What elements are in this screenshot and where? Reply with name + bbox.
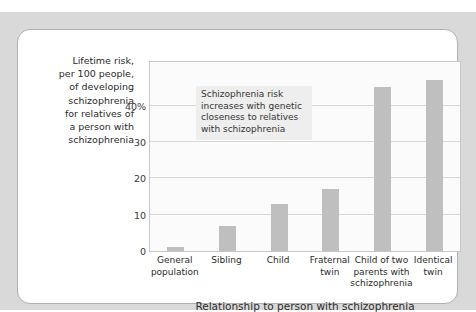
bar [426,80,443,251]
bar [322,189,339,251]
x-axis-tick-label-line: Identical [399,255,467,267]
bar [271,204,288,251]
gridline [150,214,460,215]
figure-card: Lifetime risk,per 100 people,of developi… [17,29,458,304]
bar [374,87,391,251]
bar [167,247,184,251]
x-axis-tick-label-line: population [141,267,209,279]
x-axis-tick-label-line: twin [399,267,467,279]
annotation-callout: Schizophrenia risk increases with geneti… [196,86,312,140]
y-axis-tick-label: 10 [116,209,146,220]
bar [219,226,236,251]
y-axis-tick-labels: 010203040% [113,61,146,252]
x-axis-title: Relationship to person with schizophreni… [149,300,461,312]
x-axis-tick-label: Identicaltwin [399,255,467,278]
x-axis-tick-labels: GeneralpopulationSiblingChildFraternaltw… [149,255,461,297]
y-axis-tick-label: 20 [116,173,146,184]
y-axis-tick-label: 30 [116,136,146,147]
gridline [150,177,460,178]
y-axis-tick-label: 40% [116,100,146,111]
page-backdrop: Lifetime risk,per 100 people,of developi… [0,12,476,310]
x-axis-tick-label-line: schizophrenia [348,278,416,290]
gridline [150,141,460,142]
